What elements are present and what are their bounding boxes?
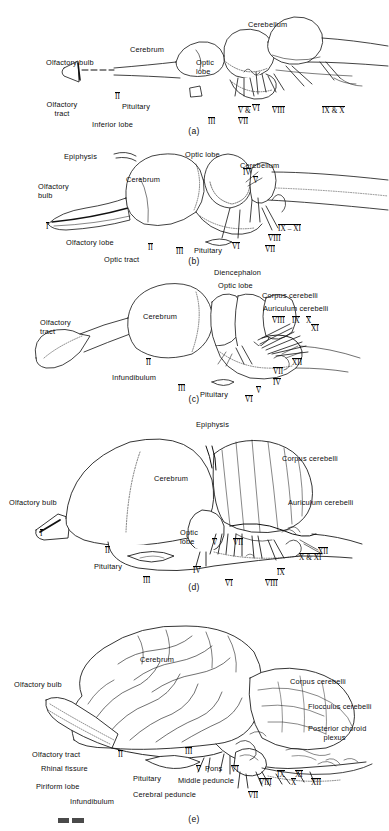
cranial-nerve-a-4: VI (252, 104, 260, 113)
panel-c: DiencephalonOptic lobeCorpus cerebelliAu… (0, 266, 389, 406)
cranial-nerve-c-9: XI (311, 324, 319, 333)
cranial-nerve-a-1: III (208, 117, 215, 126)
cranial-nerve-numeral: II (118, 750, 123, 759)
cranial-nerve-e-5: VIII (259, 778, 272, 787)
cranial-nerve-numeral: II (148, 243, 153, 252)
cranial-nerve-numeral: III (185, 747, 192, 756)
cranial-nerve-a-5: VIII (272, 106, 285, 115)
label-e-5: Olfactory tract (32, 750, 80, 759)
cranial-nerve-c-4: VI (245, 395, 253, 404)
cranial-nerve-numeral: XI (311, 324, 319, 333)
cranial-nerve-numeral: III (176, 247, 183, 256)
cranial-nerve-numeral: VI (252, 104, 260, 113)
cranial-nerve-numeral: IV (243, 168, 251, 177)
cranial-nerve-a-3: VII (238, 117, 248, 126)
label-e-8: Infundibulum (70, 797, 114, 806)
label-a-3: Optic lobe (196, 58, 214, 76)
cranial-nerve-e-4: VII (248, 791, 258, 800)
cranial-nerve-numeral: V & (238, 106, 251, 115)
label-e-12: Pons (205, 764, 222, 773)
cranial-nerve-c-10: XII (292, 358, 302, 367)
label-c-7: Pituitary (200, 390, 228, 399)
panel-e: CerebrumCorpus cerebelliFlocculus cerebe… (0, 592, 389, 831)
label-e-4: Posterior choroid plexus (308, 724, 366, 742)
label-e-11: Middle peduncle (178, 776, 234, 785)
cranial-nerve-e-6: IX (277, 770, 285, 779)
cranial-nerve-numeral: VI (231, 765, 239, 774)
panel-a: Olfactory bulbOlfactory tractCerebrumOpt… (0, 0, 389, 138)
cranial-nerve-numeral: II (146, 358, 151, 367)
label-b-0: Epiphysis (64, 152, 97, 161)
cranial-nerve-c-2: IV (273, 378, 281, 387)
cranial-nerve-numeral: II (115, 92, 120, 101)
label-e-2: Flocculus cerebelli (308, 702, 372, 711)
cranial-nerve-c-5: VII (273, 367, 283, 376)
label-e-0: Cerebrum (140, 655, 174, 664)
cranial-nerve-numeral: VIII (265, 579, 278, 588)
cranial-nerve-d-8: IX (277, 568, 285, 577)
label-b-5: Olfactory lobe (66, 238, 114, 247)
cranial-nerve-numeral: VIII (272, 316, 285, 325)
cranial-nerve-d-7: VIII (265, 579, 278, 588)
cranial-nerve-numeral: V (212, 538, 217, 547)
panel-b: EpiphysisOlfactory bulbCerebrumOptic lob… (0, 138, 389, 266)
panel-d: EpiphysisCorpus cerebelliCerebrumAuricul… (0, 406, 389, 592)
cranial-nerve-b-4: V (253, 176, 258, 185)
cranial-nerve-d-0: I (40, 529, 43, 538)
cranial-nerve-b-8: IX – XI (278, 224, 301, 233)
cranial-nerve-c-6: VIII (272, 316, 285, 325)
label-d-3: Auriculum cerebelli (288, 498, 353, 507)
cranial-nerve-numeral: VII (238, 117, 248, 126)
cranial-nerve-numeral: V (196, 765, 201, 774)
cranial-nerve-d-3: IV (193, 566, 201, 575)
cranial-nerve-b-3: IV (243, 168, 251, 177)
label-e-10: Cerebral peduncle (133, 790, 196, 799)
label-b-7: Pituitary (194, 246, 222, 255)
cranial-nerve-numeral: IX – XI (278, 224, 301, 233)
cranial-nerve-b-6: VII (265, 245, 275, 254)
panel-b-caption: (b) (188, 256, 199, 266)
cranial-nerve-numeral: V (256, 386, 261, 395)
cranial-nerve-numeral: IX & X (322, 106, 345, 115)
cranial-nerve-a-2: V & (238, 106, 251, 115)
cranial-nerve-d-1: II (105, 546, 110, 555)
cranial-nerve-numeral: III (208, 117, 215, 126)
cranial-nerve-e-8: XI (295, 770, 303, 779)
cranial-nerve-numeral: II (105, 546, 110, 555)
cranial-nerve-numeral: VIII (259, 778, 272, 787)
cranial-nerve-b-2: III (176, 247, 183, 256)
label-d-0: Epiphysis (196, 420, 229, 429)
label-a-0: Olfactory bulb (46, 58, 94, 67)
label-c-0: Diencephalon (214, 268, 261, 277)
page-number-artifact (58, 818, 84, 823)
cranial-nerve-b-0: I (46, 222, 49, 231)
cranial-nerve-e-3: VI (231, 765, 239, 774)
cranial-nerve-numeral: VII (248, 791, 258, 800)
panel-d-caption: (d) (188, 582, 199, 592)
label-b-3: Optic lobe (185, 150, 220, 159)
cranial-nerve-b-7: VIII (268, 234, 281, 243)
cranial-nerve-b-5: VI (232, 242, 240, 251)
cranial-nerve-numeral: XII (318, 547, 328, 556)
cranial-nerve-numeral: XI (295, 770, 303, 779)
cranial-nerve-numeral: VI (225, 579, 233, 588)
label-c-6: Infundibulum (112, 373, 156, 382)
cranial-nerve-e-2: V (196, 765, 201, 774)
cranial-nerve-d-4: V (212, 538, 217, 547)
label-b-1: Olfactory bulb (38, 182, 69, 200)
label-c-3: Auriculum cerebelli (263, 304, 328, 313)
label-c-5: Cerebrum (143, 312, 177, 321)
cranial-nerve-e-1: III (185, 747, 192, 756)
cranial-nerve-a-6: IX & X (322, 106, 345, 115)
cranial-nerve-e-0: II (118, 750, 123, 759)
cranial-nerve-d-6: VII (233, 538, 243, 547)
cranial-nerve-numeral: VI (232, 242, 240, 251)
cranial-nerve-a-0: II (115, 92, 120, 101)
label-c-4: Olfactory tract (40, 318, 71, 336)
cranial-nerve-numeral: IV (273, 378, 281, 387)
cranial-nerve-numeral: I (40, 529, 43, 538)
label-d-5: Optic lobe (180, 528, 198, 546)
label-d-2: Cerebrum (154, 474, 188, 483)
label-d-4: Olfactory bulb (9, 498, 57, 507)
cranial-nerve-d-2: III (143, 576, 150, 585)
